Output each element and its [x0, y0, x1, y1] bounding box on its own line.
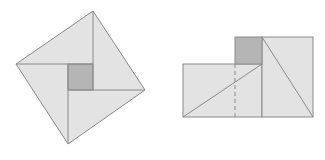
inner-square	[68, 64, 93, 90]
tilted-square-figure	[16, 11, 145, 144]
rearranged-figure	[183, 37, 313, 117]
small-square	[235, 37, 262, 64]
pythagoras-diagram	[0, 0, 325, 160]
